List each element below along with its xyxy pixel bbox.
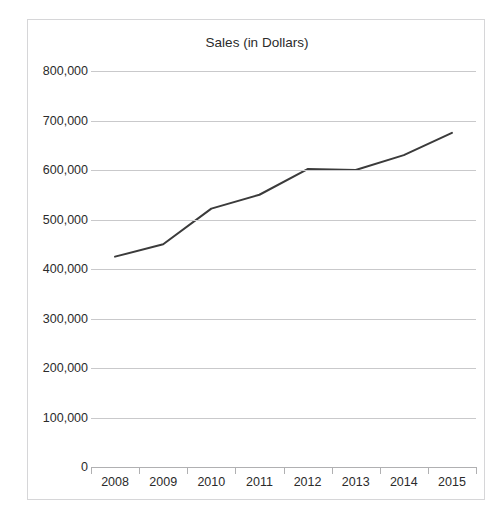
gridline-100000	[91, 418, 476, 419]
chart-title: Sales (in Dollars)	[28, 35, 486, 50]
x-tick	[332, 467, 333, 474]
y-tick-label: 600,000	[8, 163, 88, 177]
gridline-800000	[91, 71, 476, 72]
y-tick-label: 800,000	[8, 64, 88, 78]
x-tick	[476, 467, 477, 474]
y-axis-labels: 0100,000200,000300,000400,000500,000600,…	[0, 71, 88, 467]
y-tick-label: 300,000	[8, 312, 88, 326]
x-tick	[380, 467, 381, 474]
gridline-600000	[91, 170, 476, 171]
x-tick	[187, 467, 188, 474]
x-tick	[428, 467, 429, 474]
sales-line	[115, 133, 452, 257]
gridline-400000	[91, 269, 476, 270]
x-tick-label-2015: 2015	[424, 475, 480, 489]
gridline-500000	[91, 220, 476, 221]
plot-area	[91, 71, 476, 467]
gridline-700000	[91, 121, 476, 122]
y-tick-label: 200,000	[8, 361, 88, 375]
y-tick-label: 400,000	[8, 262, 88, 276]
y-tick-label: 0	[8, 460, 88, 474]
chart-frame: Sales (in Dollars) 0100,000200,000300,00…	[27, 19, 485, 500]
y-tick-label: 700,000	[8, 114, 88, 128]
clipped-top-text	[0, 0, 504, 5]
x-tick	[284, 467, 285, 474]
gridline-300000	[91, 319, 476, 320]
x-tick	[235, 467, 236, 474]
y-tick-label: 500,000	[8, 213, 88, 227]
x-tick	[139, 467, 140, 474]
gridline-200000	[91, 368, 476, 369]
y-tick-label: 100,000	[8, 411, 88, 425]
x-tick	[91, 467, 92, 474]
